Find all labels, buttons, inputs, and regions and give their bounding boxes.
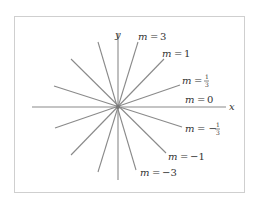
svg-text:0: 0	[207, 94, 213, 105]
slope-diagram: y x m = 3 m = 1 m = 1 3 m = 0 m = − 1 3 …	[0, 0, 256, 203]
svg-text:3: 3	[160, 31, 166, 42]
svg-text:=: =	[180, 151, 188, 162]
svg-text:m: m	[168, 151, 177, 162]
label-m-one-third: m = 1 3	[182, 73, 209, 88]
svg-text:m: m	[162, 48, 171, 59]
svg-text:−3: −3	[162, 167, 177, 178]
svg-text:1: 1	[216, 121, 220, 128]
svg-text:m: m	[182, 75, 191, 86]
label-m-0: m = 0	[185, 94, 213, 105]
svg-text:= −: = −	[197, 123, 217, 134]
svg-text:=: =	[152, 167, 160, 178]
svg-text:=: =	[174, 48, 182, 59]
svg-text:−1: −1	[190, 151, 205, 162]
svg-text:1: 1	[205, 73, 209, 80]
label-m-neg-one-third: m = − 1 3	[185, 121, 220, 136]
svg-text:m: m	[185, 123, 194, 134]
label-m-neg-1: m = −1	[168, 151, 205, 162]
svg-text:=: =	[194, 75, 202, 86]
svg-text:=: =	[150, 31, 158, 42]
label-m-neg-3: m = −3	[140, 167, 177, 178]
svg-text:m: m	[185, 94, 194, 105]
svg-text:3: 3	[216, 129, 220, 136]
origin-point	[116, 105, 120, 109]
svg-text:1: 1	[184, 48, 190, 59]
svg-text:=: =	[197, 94, 205, 105]
svg-text:m: m	[140, 167, 149, 178]
label-m-1: m = 1	[162, 48, 190, 59]
label-m-3: m = 3	[138, 31, 166, 42]
svg-text:m: m	[138, 31, 147, 42]
svg-text:3: 3	[205, 81, 209, 88]
y-axis-label: y	[114, 29, 121, 40]
x-axis-label: x	[229, 101, 235, 112]
